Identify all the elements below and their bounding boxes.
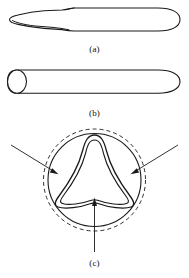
caption-a: (a) — [0, 44, 189, 55]
arrow-bottom — [92, 198, 97, 253]
caption-c: (c) — [0, 258, 189, 269]
panel-b-cylindrical-rod-view: (b) — [0, 62, 189, 124]
rod-body-outline — [8, 70, 181, 93]
arrow-upper-left — [11, 145, 59, 174]
chisel-side-view-drawing — [0, 0, 189, 44]
rod-end-face-ellipse — [8, 70, 27, 93]
cylindrical-rod-drawing — [0, 62, 189, 108]
caption-b: (b) — [0, 108, 189, 119]
cross-section-drawing — [0, 124, 189, 256]
chisel-body-outline — [10, 8, 181, 31]
arrow-upper-right — [131, 145, 179, 174]
lobe-outer-contour — [55, 135, 133, 208]
panel-c-cross-section-view: (c) — [0, 124, 189, 278]
panel-a-chisel-side-view: (a) — [0, 0, 189, 62]
figure-root: (a) (b) — [0, 0, 189, 278]
